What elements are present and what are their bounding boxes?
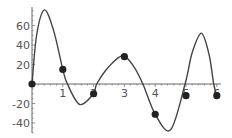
y-tick-label: -40 (12, 117, 30, 130)
chart-plot: 604020-20-40 123456 (0, 0, 232, 138)
data-point (28, 80, 35, 87)
x-tick-label: 4 (152, 87, 159, 100)
x-ticks: 123456 (38, 84, 220, 100)
y-tick-label: -20 (12, 98, 30, 111)
data-point (121, 53, 128, 60)
data-point (182, 92, 189, 99)
data-point (213, 92, 220, 99)
y-tick-label: 60 (16, 20, 30, 33)
data-point (152, 111, 159, 118)
y-tick-label: 40 (16, 39, 30, 52)
x-tick-label: 1 (59, 87, 66, 100)
data-point (90, 90, 97, 97)
data-point (59, 66, 66, 73)
x-tick-label: 3 (121, 87, 128, 100)
y-tick-label: 20 (16, 59, 30, 72)
